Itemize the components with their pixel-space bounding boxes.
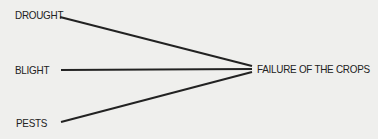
cause-label-drought: DROUGHT	[15, 9, 63, 22]
cause-effect-diagram: DROUGHT BLIGHT PESTS FAILURE OF THE CROP…	[0, 0, 378, 139]
cause-label-pests: PESTS	[16, 117, 47, 130]
effect-label-failure-of-crops: FAILURE OF THE CROPS	[257, 63, 370, 76]
cause-label-blight: BLIGHT	[15, 64, 49, 77]
line-drought-to-failure	[60, 17, 252, 66]
line-blight-to-failure	[61, 69, 252, 70]
line-pests-to-failure	[61, 72, 252, 122]
